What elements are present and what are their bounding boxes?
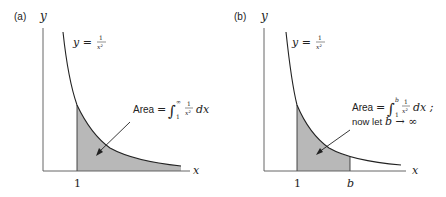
svg-text:1: 1 — [318, 34, 322, 41]
svg-text:x²: x² — [185, 109, 191, 116]
y-axis-label: y — [39, 9, 47, 23]
svg-text:=: = — [157, 103, 166, 116]
svg-text:x²: x² — [97, 43, 103, 50]
svg-text:1: 1 — [176, 113, 180, 120]
x-axis-label: x — [412, 164, 419, 177]
shaded-area — [297, 105, 350, 171]
panel-a: (a) y y = 1 x² 1 x Area = ∫ ∞ 1 1 x² — [14, 9, 210, 190]
curve-label: y = 1 x² — [291, 34, 325, 50]
improper-integral-figure: (a) y y = 1 x² 1 x Area = ∫ ∞ 1 1 x² — [0, 0, 446, 197]
svg-text:dx: dx — [196, 103, 210, 116]
panel-b: (b) y y = 1 x² 1 b x Area = ∫ b 1 1 — [234, 9, 434, 190]
area-annotation: Area = ∫ b 1 1 x² dx ; now let b → ∞ — [352, 96, 434, 128]
svg-text:=: = — [376, 101, 385, 114]
svg-text:b → ∞: b → ∞ — [385, 115, 417, 128]
svg-text:1: 1 — [99, 34, 103, 41]
x-axis-label: x — [193, 164, 200, 177]
area-annotation: Area = ∫ ∞ 1 1 x² dx — [133, 98, 210, 120]
svg-text:x²: x² — [402, 107, 408, 114]
svg-text:∞: ∞ — [176, 98, 181, 105]
panel-label: (a) — [14, 11, 26, 22]
svg-text:1: 1 — [404, 98, 408, 105]
svg-text:Area: Area — [352, 102, 374, 113]
tick-label-1: 1 — [74, 177, 81, 190]
panel-label: (b) — [234, 11, 246, 22]
svg-text:now let: now let — [352, 116, 382, 127]
svg-text:y =: y = — [291, 36, 311, 49]
svg-text:b: b — [395, 96, 399, 103]
svg-text:dx ;: dx ; — [413, 101, 434, 114]
svg-text:x²: x² — [316, 43, 322, 50]
svg-text:1: 1 — [187, 100, 191, 107]
tick-label-1: 1 — [294, 177, 301, 190]
curve-label: y = 1 x² — [72, 34, 106, 50]
y-axis-label: y — [260, 9, 268, 23]
svg-text:Area: Area — [133, 104, 155, 115]
tick-label-b: b — [347, 177, 354, 190]
svg-text:y =: y = — [72, 36, 92, 49]
svg-text:∫: ∫ — [168, 102, 176, 120]
